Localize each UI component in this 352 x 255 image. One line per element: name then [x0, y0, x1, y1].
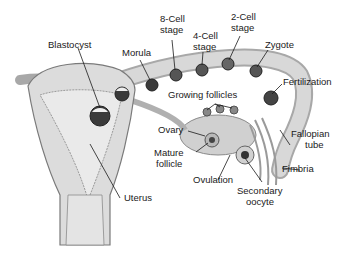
growing-follicle — [203, 108, 211, 116]
zygote-cell — [250, 65, 262, 77]
label-uterus: Uterus — [124, 193, 152, 203]
label-secondary-oocyte-line1: Secondary — [237, 186, 282, 196]
label-fallopian-tube-line1: Fallopian — [291, 129, 330, 139]
label-2-cell-line2: stage — [231, 23, 254, 33]
label-fallopian-tube-line2: tube — [305, 140, 324, 150]
label-ovary: Ovary — [158, 125, 183, 135]
label-secondary-oocyte-line2: oocyte — [246, 197, 274, 207]
fertilization-cell — [264, 91, 278, 105]
label-zygote: Zygote — [265, 40, 294, 50]
four-cell-cell — [196, 64, 208, 76]
label-mature-follicle-line2: follicle — [156, 159, 182, 169]
morula-cell — [146, 79, 158, 91]
label-8-cell-line2: stage — [160, 25, 183, 35]
label-fimbria: Fimbria — [282, 164, 314, 174]
label-morula: Morula — [122, 48, 151, 58]
reproductive-diagram: Blastocyst Morula 8-Cell stage 4-Cell st… — [0, 0, 352, 255]
label-4-cell-line2: stage — [193, 42, 216, 52]
eight-cell-cell — [170, 69, 182, 81]
label-ovulation: Ovulation — [193, 175, 233, 185]
label-mature-follicle-line1: Mature — [154, 148, 184, 158]
two-cell-cell — [222, 58, 234, 70]
label-2-cell-line1: 2-Cell — [231, 12, 256, 22]
label-8-cell-line1: 8-Cell — [160, 14, 185, 24]
label-fertilization: Fertilization — [283, 77, 332, 87]
label-4-cell-line1: 4-Cell — [193, 31, 218, 41]
label-blastocyst: Blastocyst — [48, 40, 91, 50]
label-growing-follicles: Growing follicles — [168, 90, 237, 100]
